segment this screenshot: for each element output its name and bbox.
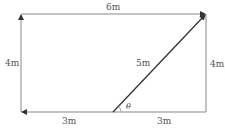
label-top: 6m: [106, 2, 121, 12]
label-diagonal: 5m: [136, 58, 151, 68]
label-bottom-left: 3m: [62, 116, 77, 126]
label-left: 4m: [5, 58, 20, 68]
label-bottom-right: 3m: [157, 116, 172, 126]
label-right: 4m: [210, 59, 225, 69]
angle-arc: [119, 106, 122, 112]
label-angle: θ: [126, 102, 131, 111]
vector-diagram: 6m 4m 4m 5m 3m 3m θ: [0, 0, 225, 130]
diagonal-vector: [113, 15, 205, 112]
